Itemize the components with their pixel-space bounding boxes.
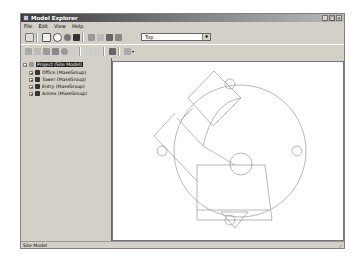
status-bar: Site Model [21,241,344,250]
toolbar-separator [36,33,38,42]
massgroup-icon [35,70,40,75]
tree-item-label: Entry (MassGroup) [42,84,85,89]
control-point-top [225,79,235,89]
render-icon[interactable] [106,34,113,41]
tree-item-office[interactable]: + Office (MassGroup) [29,69,86,76]
expand-icon[interactable]: + [29,78,33,82]
cut-icon[interactable] [43,48,50,55]
collapse-icon[interactable]: − [23,63,27,67]
undo-icon[interactable] [25,48,32,55]
delete-icon[interactable] [70,48,77,55]
model-explorer-window: Model Explorer _ □ × File Edit View Help… [20,13,345,249]
massgroup-icon [35,91,40,96]
menu-view[interactable]: View [54,22,66,30]
tree-item-tower[interactable]: + Tower (MassGroup) [29,76,86,83]
control-point-right [292,146,302,156]
layers-icon[interactable] [115,34,122,41]
edit-toolbar: ▾ [21,44,344,58]
toolbar-separator [118,47,120,56]
tree-item-label: Tower (MassGroup) [42,77,86,82]
model-viewport[interactable] [112,61,344,241]
mass-icon[interactable] [73,34,80,41]
expand-icon[interactable]: + [29,85,33,89]
tree-item-label: Project (Site Model) [36,62,83,67]
toolbar-separator [82,33,84,42]
tower-tail [203,146,235,165]
shade-icon[interactable] [64,34,71,41]
dropdown-arrow-icon[interactable]: ▾ [132,49,134,54]
tree-item-annex[interactable]: + Annex (MassGroup) [29,90,87,97]
toolbar-separator [103,47,105,56]
menu-bar: File Edit View Help [21,22,347,30]
office-wing [154,113,197,181]
massgroup-icon [35,84,40,89]
save-icon[interactable] [25,33,34,42]
maximize-button[interactable]: □ [329,15,335,21]
add-icon[interactable] [85,48,92,55]
site-plan-drawing [113,62,343,240]
remove-icon[interactable] [94,48,101,55]
minimize-button[interactable]: _ [322,15,328,21]
office-detail [181,108,193,120]
zoom-icon[interactable] [97,34,104,41]
menu-edit[interactable]: Edit [38,22,48,30]
view-select[interactable]: Top ▼ [141,33,211,41]
model-tree: − Project (Site Model) + Office (MassGro… [21,58,112,241]
properties-icon[interactable] [109,48,116,55]
window-title: Model Explorer [31,14,78,22]
app-icon [23,15,29,21]
office-outline [188,71,241,126]
massgroup-icon [35,77,40,82]
tree-item-entry[interactable]: + Entry (MassGroup) [29,83,85,90]
tower-shape [177,98,241,146]
expand-icon[interactable]: + [29,71,33,75]
resize-grip[interactable] [338,244,343,249]
menu-file[interactable]: File [24,22,32,30]
menu-help[interactable]: Help [72,22,83,30]
settings-icon[interactable] [124,48,131,55]
main-toolbar: Top ▼ [21,30,344,44]
status-text: Site Model [23,242,47,250]
project-icon [29,62,34,67]
expand-icon[interactable]: + [29,92,33,96]
copy-icon[interactable] [52,48,59,55]
title-bar[interactable]: Model Explorer _ □ × [21,14,344,22]
redo-icon[interactable] [34,48,41,55]
copy-view-icon[interactable] [42,33,51,42]
view-select-value: Top [145,34,153,40]
tree-item-label: Office (MassGroup) [42,70,86,75]
control-point-left [157,146,167,156]
tree-item-label: Annex (MassGroup) [42,91,87,96]
tree-item-project[interactable]: − Project (Site Model) [23,61,83,68]
pan-icon[interactable] [88,34,95,41]
close-button[interactable]: × [336,15,342,21]
chevron-down-icon[interactable]: ▼ [202,34,210,40]
camera-icon[interactable] [53,33,62,42]
paste-icon[interactable] [61,48,68,55]
toolbar-separator [79,47,81,56]
